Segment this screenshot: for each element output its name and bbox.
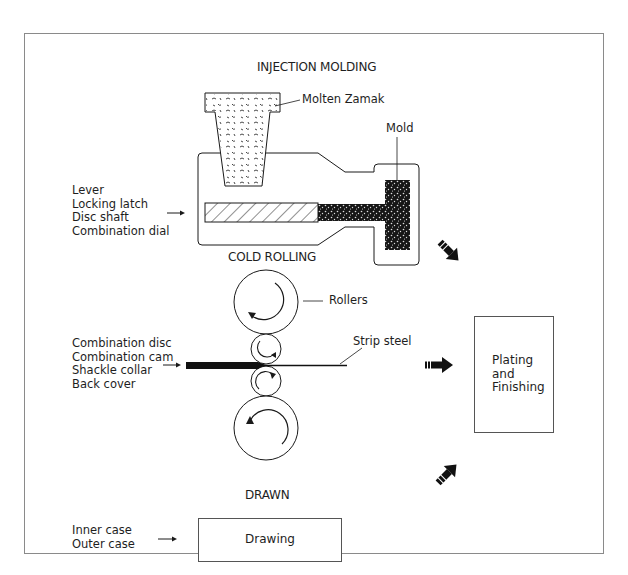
callout-strip-steel: Strip steel [353,335,412,349]
part-item: Inner case [72,524,135,538]
final-step-line: and [492,368,545,382]
injection-machine [198,93,419,265]
section-title-cold-rolling: COLD ROLLING [228,250,316,264]
final-step-line: Plating [492,354,545,368]
plating-finishing-box: Plating and Finishing [474,316,554,433]
part-item: Combination cam [72,351,173,365]
section-title-injection: INJECTION MOLDING [257,60,376,74]
final-step-line: Finishing [492,381,545,395]
part-item: Combination dial [72,225,170,239]
part-item: Lever [72,184,170,198]
part-item: Combination disc [72,337,173,351]
callout-rollers: Rollers [329,294,368,308]
arrow-down-right-icon [434,236,464,266]
part-item: Outer case [72,538,135,552]
callout-molten-zamak: Molten Zamak [302,93,385,107]
plating-finishing-label: Plating and Finishing [492,354,545,395]
callout-mold: Mold [386,122,413,136]
part-item: Locking latch [72,198,170,212]
arrow-right-icon [425,357,453,373]
arrow-right-icon [158,537,177,542]
part-item: Shackle collar [72,364,173,378]
drawing-label: Drawing [245,533,295,547]
part-item: Back cover [72,378,173,392]
drawing-process-box: Drawing [198,518,342,562]
part-item: Disc shaft [72,211,170,225]
cold-rolling-parts-list: Combination disc Combination cam Shackle… [72,337,173,391]
arrow-up-right-icon [432,459,462,489]
section-title-drawn: DRAWN [245,488,290,502]
drawn-parts-list: Inner case Outer case [72,524,135,551]
process-diagram [0,0,628,575]
arrow-right-icon [167,211,185,216]
injection-parts-list: Lever Locking latch Disc shaft Combinati… [72,184,170,238]
